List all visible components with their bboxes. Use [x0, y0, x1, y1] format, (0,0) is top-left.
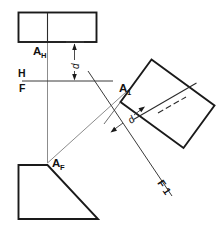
- fold-line-hf-group: H F: [18, 67, 113, 94]
- auxiliary-view-rectangle: [121, 60, 215, 149]
- dim-aux-extension: [104, 102, 121, 124]
- fold-label-f: F: [19, 82, 26, 94]
- drawing-svg: H F F 1 A H: [0, 0, 222, 233]
- label-point-af: A F: [52, 157, 65, 172]
- top-view-rectangle: [19, 13, 97, 43]
- top-view-outline: [19, 13, 97, 43]
- dim-top-arrow-down: [72, 74, 77, 81]
- fold-label-h: H: [18, 67, 26, 79]
- front-view-trapezoid: [19, 165, 99, 219]
- dim-aux-label: d: [126, 113, 137, 125]
- label-point-ah: A H: [33, 45, 46, 60]
- dim-top-arrow-up: [72, 44, 77, 51]
- technical-drawing-canvas: H F F 1 A H: [0, 0, 222, 233]
- front-view-outline: [19, 165, 99, 219]
- point-sublabel-f: F: [60, 163, 65, 172]
- auxiliary-view-outline: [121, 60, 215, 149]
- point-sublabel-h: H: [41, 51, 46, 60]
- dim-top-label: d: [70, 63, 81, 69]
- dimension-d-top: d: [66, 42, 84, 81]
